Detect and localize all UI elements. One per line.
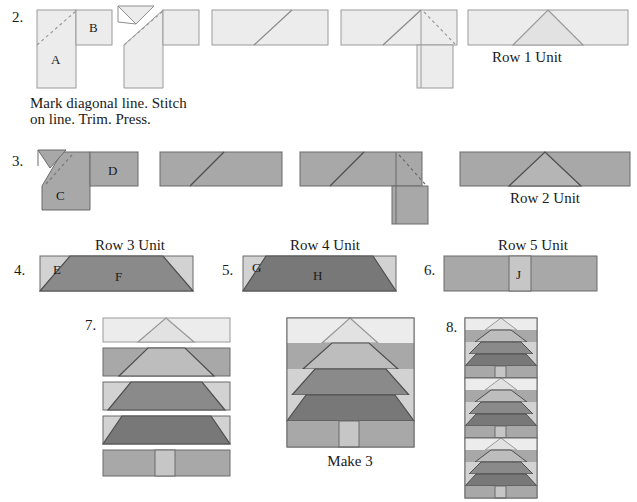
- step8-b1-row3-trap: [469, 342, 533, 354]
- row-5-unit-caption: Row 5 Unit: [498, 237, 569, 253]
- step-7-number: 7.: [85, 317, 96, 333]
- row-2-unit-caption: Row 2 Unit: [510, 190, 581, 206]
- row1-unit-partial: [341, 10, 457, 45]
- step8-b3-row4-trap: [465, 474, 537, 486]
- row-3-unit-caption: Row 3 Unit: [95, 237, 166, 253]
- piece-g-label: G: [252, 260, 261, 275]
- step-2-instruction-line-1: Mark diagonal line. Stitch: [30, 95, 187, 111]
- step8-block-2: [465, 378, 537, 438]
- row-4-unit-caption: Row 4 Unit: [290, 237, 361, 253]
- row1-second-piece: [417, 45, 453, 88]
- piece-f-label: F: [115, 269, 122, 284]
- piece-b-attached: [163, 10, 199, 45]
- row1-half-unit: [212, 10, 328, 45]
- piece-e-label: E: [53, 262, 61, 277]
- step8-b3-row3-trap: [469, 462, 533, 474]
- row2-half-unit: [160, 152, 282, 186]
- step8-block-3: [465, 438, 537, 498]
- step8-b1-row4-trap: [465, 354, 537, 366]
- step7-row-4: [103, 416, 230, 444]
- make-3-caption: Make 3: [327, 453, 372, 469]
- step4-row3-unit: E F: [40, 256, 193, 291]
- step7-row-1: [103, 318, 230, 342]
- assembled-tree-block: [287, 318, 414, 447]
- step-2-instruction-line-2: on line. Trim. Press.: [30, 111, 151, 127]
- piece-b-label: B: [89, 20, 98, 35]
- step8-b2-row4-trap: [465, 414, 537, 426]
- step7-row-2: [103, 348, 230, 376]
- row2-unit-partial: [300, 152, 422, 186]
- step7-row-5: [103, 450, 230, 476]
- block-row4-trapezoid: [287, 395, 414, 421]
- step-5-number: 5.: [222, 262, 233, 278]
- piece-c-label: C: [56, 188, 65, 203]
- piece-a-label: A: [51, 52, 61, 67]
- step-3-number: 3.: [12, 153, 23, 169]
- step-4-number: 4.: [14, 262, 25, 278]
- step8-b2-trunk: [495, 426, 506, 438]
- step2-figure-row1-unit: [468, 10, 628, 45]
- step8-b3-trunk: [495, 486, 506, 498]
- step3-figure-row2-unit: [460, 152, 630, 186]
- quilt-diagram-canvas: 2. A B Row 1 Unit Mark diagonal line. St…: [0, 0, 637, 502]
- step2-figure-3: [212, 10, 328, 45]
- piece-d-label: D: [108, 163, 117, 178]
- piece-h-label: H: [313, 268, 322, 283]
- step-6-number: 6.: [424, 262, 435, 278]
- step7-row5-trunk: [155, 450, 175, 476]
- step-2-number: 2.: [12, 9, 23, 25]
- instruction-sheet: 2. A B Row 1 Unit Mark diagonal line. St…: [0, 0, 637, 502]
- step8-block-1: [465, 318, 537, 378]
- step8-three-blocks-stacked: [465, 318, 537, 498]
- step8-b2-row3-trap: [469, 402, 533, 414]
- piece-a-rect: [37, 10, 76, 88]
- block-row5-trunk: [339, 421, 359, 447]
- step3-figure-2: [160, 152, 282, 186]
- step8-b1-trunk: [495, 366, 506, 378]
- step7-row4-trapezoid: [103, 416, 230, 444]
- step7-row-3: [103, 382, 230, 410]
- step-8-number: 8.: [446, 319, 457, 335]
- step7-exploded-rows: [103, 318, 230, 476]
- row2-second-piece: [392, 186, 428, 224]
- step6-row5-unit: J: [444, 256, 597, 291]
- step5-row4-unit: G H: [243, 256, 396, 291]
- piece-j-label: J: [516, 267, 521, 282]
- row-1-unit-caption: Row 1 Unit: [492, 49, 563, 65]
